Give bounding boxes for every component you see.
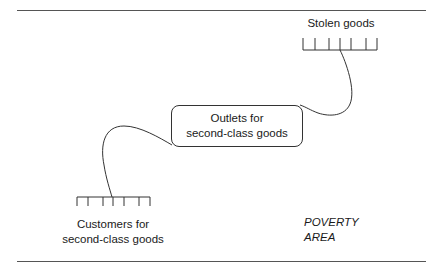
customers-label: Customers for second-class goods (52, 217, 174, 247)
outlets-node: Outlets for second-class goods (171, 105, 303, 147)
customers-comb (77, 197, 150, 206)
poverty-area-line1: POVERTY (304, 215, 359, 230)
outlets-label-line1: Outlets for (172, 111, 302, 126)
poverty-area-label: POVERTY AREA (304, 215, 359, 245)
outlets-label-line2: second-class goods (172, 126, 302, 141)
connector-stolen-to-outlets (300, 50, 352, 115)
connector-outlets-to-customers (103, 126, 172, 197)
customers-label-line2: second-class goods (52, 232, 174, 247)
stolen-goods-label: Stolen goods (302, 16, 380, 31)
outlets-label: Outlets for second-class goods (172, 111, 302, 141)
customers-label-line1: Customers for (52, 217, 174, 232)
stolen-goods-comb (303, 38, 377, 50)
poverty-area-line2: AREA (304, 230, 359, 245)
